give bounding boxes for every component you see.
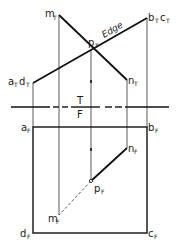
label-mF: m F bbox=[48, 213, 60, 225]
label-aF: a F bbox=[21, 122, 31, 134]
label-nF: n F bbox=[128, 143, 138, 155]
svg-text:F: F bbox=[101, 188, 105, 195]
svg-text:F: F bbox=[155, 127, 159, 134]
svg-text:T: T bbox=[165, 17, 170, 24]
projection-diagram: T F Edge m T p T b T c T a T d T n T a F… bbox=[0, 0, 179, 251]
label-pF: p F bbox=[94, 183, 105, 195]
svg-text:F: F bbox=[27, 233, 31, 240]
svg-text:F: F bbox=[56, 218, 60, 225]
svg-text:T: T bbox=[25, 81, 30, 88]
line-pm-front-hidden bbox=[59, 181, 91, 215]
svg-text:T: T bbox=[133, 80, 138, 87]
svg-text:c: c bbox=[160, 12, 166, 23]
label-pT: p T bbox=[88, 37, 99, 49]
label-bF: b F bbox=[148, 122, 159, 134]
svg-text:T: T bbox=[52, 14, 57, 21]
svg-text:b: b bbox=[148, 122, 154, 133]
svg-text:d: d bbox=[20, 228, 26, 239]
svg-text:F: F bbox=[134, 148, 138, 155]
fold-label-front: F bbox=[77, 109, 83, 120]
diagram-canvas: T F Edge m T p T b T c T a T d T n T a F… bbox=[0, 0, 179, 251]
label-dF: d F bbox=[20, 228, 31, 240]
line-np-front-visible bbox=[91, 148, 127, 181]
svg-text:T: T bbox=[13, 81, 18, 88]
svg-text:p: p bbox=[88, 37, 94, 48]
label-cF: c F bbox=[148, 228, 158, 240]
svg-text:F: F bbox=[154, 233, 158, 240]
label-nT: n T bbox=[128, 75, 138, 87]
svg-text:c: c bbox=[148, 228, 154, 239]
edge-line-top-view bbox=[33, 18, 147, 83]
label-bTcT: b T c T bbox=[148, 12, 170, 24]
fold-label-top: T bbox=[76, 95, 84, 106]
svg-text:T: T bbox=[154, 17, 159, 24]
svg-text:d: d bbox=[19, 76, 25, 87]
svg-text:F: F bbox=[27, 127, 31, 134]
pierce-point-front bbox=[89, 179, 92, 182]
label-aTdT: a T d T bbox=[8, 76, 30, 88]
label-mT: m T bbox=[45, 8, 57, 21]
svg-text:T: T bbox=[94, 42, 99, 49]
svg-text:p: p bbox=[94, 183, 100, 194]
svg-text:b: b bbox=[148, 12, 154, 23]
